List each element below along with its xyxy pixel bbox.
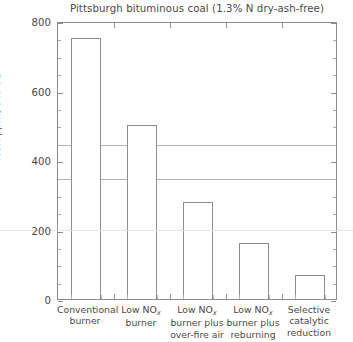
x-axis-minor-tick: [213, 295, 214, 299]
x-axis-tick-top: [114, 23, 115, 28]
x-axis-category-label-line: burner plus: [225, 317, 281, 328]
y-axis-minor-tick: [58, 127, 61, 128]
x-axis-category-label: Low NOxburner plusover-fire air: [169, 304, 225, 340]
x-axis-category-label-line: Conventional: [57, 304, 113, 315]
x-axis-minor-tick: [325, 295, 326, 299]
y-axis-minor-tick-right: [333, 197, 336, 198]
nox-subscript: x: [269, 309, 273, 317]
y-axis-minor-tick-right: [333, 75, 336, 76]
y-axis-minor-tick: [58, 197, 61, 198]
bar: [183, 202, 213, 299]
y-axis-minor-tick: [58, 40, 61, 41]
y-axis-minor-tick: [58, 110, 61, 111]
x-axis-minor-tick: [239, 295, 240, 299]
y-axis-minor-tick-right: [333, 40, 336, 41]
y-axis-tick-label: 600: [11, 86, 51, 97]
x-axis-category-label: Low NOxburner: [113, 304, 169, 329]
y-axis-tick-label: 800: [11, 17, 51, 28]
x-axis-category-label: Selectivecatalyticreduction: [281, 304, 337, 338]
x-axis-minor-tick: [127, 295, 128, 299]
y-axis-tick: [58, 93, 63, 94]
x-axis-category-label-line: reduction: [281, 327, 337, 338]
nox-subscript: x: [213, 309, 217, 317]
x-axis-category-label: Conventionalburner: [57, 304, 113, 327]
background-artifact-line: [0, 230, 353, 231]
x-axis-tick: [282, 294, 283, 299]
x-axis-category-label-line: Low NOx: [225, 304, 281, 317]
y-axis-minor-tick-right: [333, 266, 336, 267]
y-axis-label-subscript: 2: [0, 73, 2, 79]
y-axis-minor-tick-right: [333, 58, 336, 59]
y-axis-tick-right: [331, 232, 336, 233]
y-axis-minor-tick: [58, 75, 61, 76]
y-axis-tick: [58, 23, 63, 24]
y-axis-minor-tick-right: [333, 110, 336, 111]
plot-area: [57, 22, 337, 300]
x-axis-tick-top: [170, 23, 171, 28]
bar-chart-figure: Pittsburgh bituminous coal (1.3% N dry-a…: [0, 0, 353, 342]
y-axis-label: NOx ppm, 3% O2: [0, 73, 2, 161]
y-axis-tick-label: 200: [11, 225, 51, 236]
y-axis-tick-right: [331, 301, 336, 302]
x-axis-tick: [114, 294, 115, 299]
y-axis-label-text: NOx ppm, 3% O: [0, 79, 2, 161]
y-axis-minor-tick: [58, 249, 61, 250]
x-axis-category-label-line: over-fire air: [169, 329, 225, 340]
bar: [127, 125, 157, 299]
x-axis-category-label: Low NOxburner plusreburning: [225, 304, 281, 340]
x-axis-minor-tick: [157, 295, 158, 299]
x-axis-tick: [226, 294, 227, 299]
x-axis-minor-tick: [71, 295, 72, 299]
y-axis-minor-tick-right: [333, 284, 336, 285]
chart-title: Pittsburgh bituminous coal (1.3% N dry-a…: [57, 3, 337, 14]
x-axis-minor-tick: [101, 295, 102, 299]
x-axis-category-label-line: burner: [113, 317, 169, 328]
y-axis-tick: [58, 232, 63, 233]
x-axis-tick-top: [282, 23, 283, 28]
x-axis-category-label-line: catalytic: [281, 315, 337, 326]
y-axis-tick-right: [331, 162, 336, 163]
x-axis-minor-tick: [183, 295, 184, 299]
x-axis-category-label-line: Selective: [281, 304, 337, 315]
y-axis-tick-right: [331, 23, 336, 24]
x-axis-tick: [170, 294, 171, 299]
y-axis-tick-label: 400: [11, 156, 51, 167]
x-axis-minor-tick: [269, 295, 270, 299]
nox-subscript: x: [157, 309, 161, 317]
bar: [295, 275, 325, 299]
y-axis-tick: [58, 301, 63, 302]
x-axis-category-label-line: reburning: [225, 329, 281, 340]
bar: [71, 38, 101, 299]
y-axis-minor-tick: [58, 284, 61, 285]
y-axis-tick: [58, 162, 63, 163]
x-axis-tick-top: [226, 23, 227, 28]
x-axis-category-label-line: burner: [57, 315, 113, 326]
x-axis-minor-tick: [295, 295, 296, 299]
y-axis-minor-tick: [58, 58, 61, 59]
y-axis-tick-right: [331, 93, 336, 94]
x-axis-category-label-line: Low NOx: [169, 304, 225, 317]
y-axis-minor-tick: [58, 266, 61, 267]
y-axis-minor-tick-right: [333, 127, 336, 128]
y-axis-minor-tick-right: [333, 214, 336, 215]
x-axis-category-label-line: burner plus: [169, 317, 225, 328]
bar: [239, 243, 269, 299]
y-axis-minor-tick-right: [333, 249, 336, 250]
x-axis-category-label-line: Low NOx: [113, 304, 169, 317]
y-axis-minor-tick: [58, 214, 61, 215]
y-axis-tick-label: 0: [11, 295, 51, 306]
